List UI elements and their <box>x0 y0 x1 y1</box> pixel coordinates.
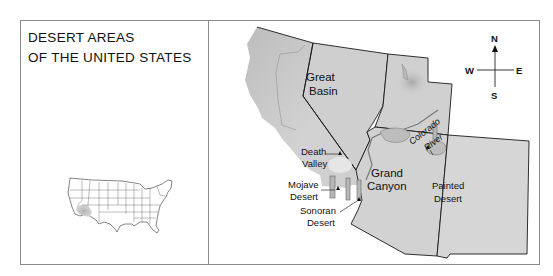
compass-south: S <box>491 90 497 101</box>
north-arrow-icon <box>492 45 498 52</box>
compass-west: W <box>465 65 474 76</box>
compass-east: E <box>516 65 522 76</box>
compass-north: N <box>491 33 498 44</box>
compass-rose: N S W E <box>0 0 553 276</box>
